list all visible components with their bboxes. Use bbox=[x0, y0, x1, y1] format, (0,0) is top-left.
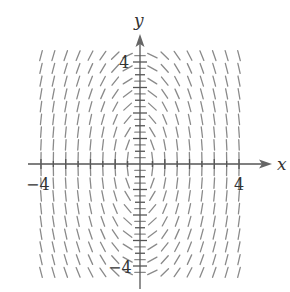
slope-segment bbox=[65, 191, 66, 201]
slope-segment bbox=[90, 191, 92, 201]
slope-segment bbox=[226, 216, 228, 226]
slope-segment bbox=[175, 242, 180, 251]
slope-segment bbox=[151, 178, 155, 188]
slope-segment bbox=[77, 216, 79, 226]
slope-segment bbox=[187, 51, 192, 60]
slope-segment bbox=[90, 127, 92, 137]
slope-segment bbox=[214, 114, 215, 124]
slope-segment bbox=[189, 140, 190, 150]
slope-segment bbox=[148, 231, 156, 237]
slope-segment bbox=[213, 89, 215, 99]
slope-segment bbox=[78, 191, 79, 201]
slope-segment bbox=[89, 204, 91, 214]
slope-segment bbox=[175, 216, 179, 226]
slope-segment bbox=[174, 64, 179, 73]
slope-segment bbox=[213, 242, 216, 252]
slope-segment bbox=[187, 64, 191, 73]
slope-segment bbox=[161, 52, 168, 59]
slope-segment bbox=[149, 115, 156, 123]
slope-segment bbox=[188, 204, 190, 214]
slope-segment bbox=[112, 243, 118, 251]
slope-segment bbox=[214, 140, 215, 150]
slope-segment bbox=[151, 140, 155, 150]
slope-segment bbox=[225, 51, 228, 61]
slope-segment bbox=[176, 204, 179, 214]
slope-segment bbox=[125, 191, 130, 200]
slope-segment bbox=[64, 255, 67, 265]
slope-segment bbox=[76, 51, 80, 61]
slope-segment bbox=[52, 51, 55, 61]
slope-segment bbox=[174, 268, 180, 277]
slope-segment bbox=[88, 268, 93, 277]
slope-segment bbox=[239, 127, 240, 137]
slope-segment bbox=[238, 76, 240, 86]
slope-segment bbox=[177, 178, 178, 188]
slope-segment bbox=[89, 114, 91, 124]
slope-segment bbox=[201, 191, 202, 201]
slope-segment bbox=[76, 255, 80, 265]
slope-segment bbox=[53, 127, 54, 137]
slope-segment bbox=[226, 191, 227, 201]
slope-segment bbox=[213, 267, 216, 277]
slope-segment bbox=[65, 178, 66, 188]
slope-segment bbox=[226, 89, 228, 99]
slope-segment bbox=[213, 51, 216, 61]
slope-segment bbox=[201, 229, 204, 239]
slope-segment bbox=[52, 255, 55, 265]
slope-segment bbox=[77, 76, 80, 86]
slope-segment bbox=[238, 101, 239, 111]
slope-segment bbox=[188, 242, 192, 252]
slope-segment bbox=[225, 76, 227, 86]
slope-segment bbox=[65, 140, 66, 150]
slope-segment bbox=[78, 178, 79, 188]
slope-segment bbox=[188, 229, 191, 239]
slope-segment bbox=[163, 204, 167, 214]
slope-segment bbox=[175, 102, 179, 112]
slope-segment bbox=[126, 140, 130, 150]
slope-segment bbox=[40, 101, 41, 111]
slope-segment bbox=[52, 76, 54, 86]
slope-segment bbox=[162, 243, 168, 251]
slope-segment bbox=[77, 204, 79, 214]
slope-segment bbox=[77, 229, 80, 239]
slope-segment bbox=[226, 101, 228, 111]
slope-segment bbox=[225, 242, 227, 252]
slope-segment bbox=[176, 114, 179, 124]
slope-segment bbox=[175, 77, 180, 86]
slope-segment bbox=[213, 255, 216, 265]
slope-segment bbox=[201, 102, 203, 112]
slope-segment bbox=[88, 51, 93, 60]
slope-segment bbox=[200, 242, 203, 252]
slope-segment bbox=[201, 216, 203, 226]
slope-segment bbox=[52, 89, 54, 99]
slope-segment bbox=[102, 127, 104, 137]
slope-segment bbox=[238, 255, 240, 265]
slope-segment bbox=[225, 63, 228, 73]
x-tick-label-min: −4 bbox=[26, 175, 50, 194]
slope-segment bbox=[149, 218, 157, 225]
y-tick-label-max: 4 bbox=[119, 53, 129, 72]
slope-segment bbox=[40, 89, 42, 99]
slope-segment bbox=[100, 242, 105, 251]
slope-segment bbox=[124, 103, 132, 110]
slope-segment bbox=[238, 63, 240, 73]
slope-segment bbox=[238, 89, 240, 99]
slope-segment bbox=[200, 51, 204, 61]
slope-segment bbox=[188, 114, 190, 124]
slope-segment bbox=[201, 89, 204, 99]
slope-segment bbox=[148, 66, 157, 71]
slope-segment bbox=[163, 115, 167, 125]
slope-segment bbox=[213, 76, 216, 86]
slope-segment bbox=[102, 140, 103, 150]
slope-segment bbox=[150, 128, 155, 137]
slope-segment bbox=[53, 114, 54, 124]
slope-segment bbox=[161, 65, 168, 73]
slope-segment bbox=[40, 51, 43, 61]
slope-segment bbox=[162, 230, 168, 239]
slope-segment bbox=[89, 229, 92, 239]
x-tick-label-max: 4 bbox=[234, 175, 244, 194]
slope-segment bbox=[40, 255, 42, 265]
slope-segment bbox=[76, 63, 80, 73]
slope-segment bbox=[40, 267, 43, 277]
slope-segment bbox=[123, 244, 132, 250]
